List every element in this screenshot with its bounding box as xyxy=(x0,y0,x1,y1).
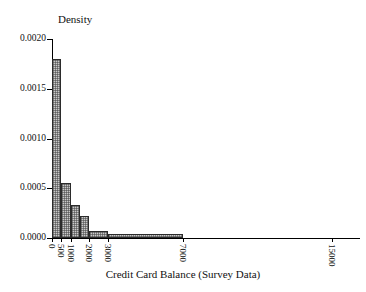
x-tick-label: 7000 xyxy=(178,244,187,262)
histogram-bar xyxy=(89,231,108,238)
y-tick-mark xyxy=(47,39,52,40)
histogram-bar xyxy=(80,216,89,238)
y-axis-title: Density xyxy=(58,13,92,25)
x-tick-label: 0 xyxy=(47,244,56,249)
y-tick-label: 0.0000 xyxy=(20,233,46,243)
histogram-figure: Density 0.00000.00050.00100.00150.0020 0… xyxy=(0,0,366,292)
x-tick-label: 1000 xyxy=(66,244,75,262)
histogram-bar xyxy=(52,59,61,238)
x-axis-line xyxy=(52,238,360,239)
histogram-bar xyxy=(108,234,183,238)
x-tick-mark xyxy=(89,238,90,242)
x-tick-mark xyxy=(71,238,72,242)
y-tick-label: 0.0020 xyxy=(20,34,46,44)
x-tick-label: 15000 xyxy=(327,244,336,267)
histogram-bar xyxy=(71,205,80,238)
x-axis-title: Credit Card Balance (Survey Data) xyxy=(0,268,366,280)
plot-area: Density 0.00000.00050.00100.00150.0020 0… xyxy=(0,0,366,292)
y-tick-label: 0.0015 xyxy=(20,84,46,94)
x-tick-label: 500 xyxy=(56,244,65,258)
x-tick-label: 2000 xyxy=(84,244,93,262)
y-tick-label: 0.0010 xyxy=(20,134,46,144)
histogram-bar xyxy=(61,183,70,238)
x-tick-mark xyxy=(332,238,333,242)
x-tick-mark xyxy=(108,238,109,242)
x-tick-mark xyxy=(183,238,184,242)
x-tick-mark xyxy=(52,238,53,242)
y-tick-label: 0.0005 xyxy=(20,183,46,193)
x-tick-mark xyxy=(61,238,62,242)
x-tick-label: 3000 xyxy=(103,244,112,262)
